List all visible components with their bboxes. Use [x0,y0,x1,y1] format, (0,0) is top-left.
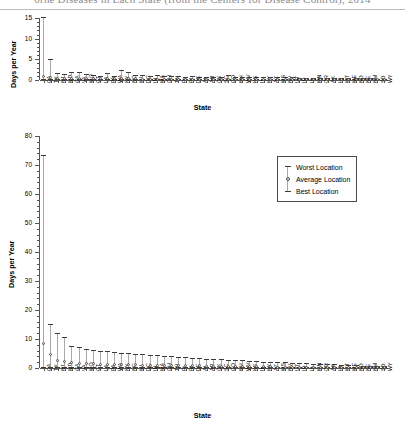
error-bar-item[interactable] [225,136,232,368]
error-bar-item[interactable] [47,18,54,80]
error-bar-item[interactable] [367,136,374,368]
x-tick [235,369,236,371]
error-bar-item[interactable] [239,136,246,368]
error-bar-item[interactable] [317,18,324,80]
error-bar-item[interactable] [76,136,83,368]
error-bar-item[interactable] [161,18,168,80]
error-bar-item[interactable] [260,18,267,80]
error-bar-item[interactable] [40,136,47,368]
error-bar-item[interactable] [218,136,225,368]
range-stem [64,338,65,368]
error-bar-item[interactable] [189,136,196,368]
error-bar-item[interactable] [40,18,47,80]
error-bar-item[interactable] [196,18,203,80]
error-bar-item[interactable] [125,18,132,80]
error-bar-item[interactable] [381,18,388,80]
average-location-marker [42,75,45,78]
error-bar-item[interactable] [189,18,196,80]
error-bar-item[interactable] [111,136,118,368]
x-tick [178,81,179,83]
error-bar-item[interactable] [232,136,239,368]
error-bar-item[interactable] [381,136,388,368]
error-bar-item[interactable] [147,136,154,368]
error-bar-item[interactable] [68,18,75,80]
error-bar-item[interactable] [104,18,111,80]
error-bar-item[interactable] [175,18,182,80]
error-bar-item[interactable] [210,136,217,368]
error-bar-item[interactable] [147,18,154,80]
error-bar-item[interactable] [154,18,161,80]
error-bar-item[interactable] [310,18,317,80]
error-bar-item[interactable] [118,136,125,368]
error-bar-item[interactable] [132,18,139,80]
error-bar-item[interactable] [83,18,90,80]
error-bar-item[interactable] [360,136,367,368]
average-location-marker [42,342,45,345]
error-bar-item[interactable] [324,18,331,80]
error-bar-item[interactable] [97,136,104,368]
error-bar-item[interactable] [352,18,359,80]
worst-location-cap [211,359,216,360]
x-tick [143,369,144,371]
x-tick [207,81,208,83]
error-bar-item[interactable] [168,18,175,80]
error-bar-item[interactable] [139,136,146,368]
error-bar-item[interactable] [374,18,381,80]
error-bar-item[interactable] [154,136,161,368]
error-bar-item[interactable] [203,18,210,80]
error-bar-item[interactable] [61,136,68,368]
error-bar-item[interactable] [54,18,61,80]
error-bar-item[interactable] [253,136,260,368]
error-bar-item[interactable] [83,136,90,368]
error-bar-item[interactable] [367,18,374,80]
error-bar-item[interactable] [374,136,381,368]
error-bar-item[interactable] [125,136,132,368]
error-bar-item[interactable] [232,18,239,80]
error-bar-item[interactable] [239,18,246,80]
error-bar-item[interactable] [90,136,97,368]
error-bar-item[interactable] [104,136,111,368]
error-bar-item[interactable] [196,136,203,368]
worst-location-icon [282,161,293,173]
y-tick-label: 20 [10,306,32,313]
error-bar-item[interactable] [210,18,217,80]
error-bar-item[interactable] [360,18,367,80]
average-location-marker [234,365,237,368]
error-bar-item[interactable] [246,136,253,368]
error-bar-item[interactable] [182,18,189,80]
error-bar-item[interactable] [203,136,210,368]
error-bar-item[interactable] [118,18,125,80]
error-bar-item[interactable] [61,18,68,80]
error-bar-item[interactable] [168,136,175,368]
error-bar-item[interactable] [253,18,260,80]
error-bar-item[interactable] [260,136,267,368]
worst-location-cap [148,355,153,356]
error-bar-item[interactable] [296,18,303,80]
error-bar-item[interactable] [289,18,296,80]
error-bar-item[interactable] [47,136,54,368]
error-bar-item[interactable] [182,136,189,368]
error-bar-item[interactable] [218,18,225,80]
error-bar-item[interactable] [267,18,274,80]
x-tick [257,81,258,83]
error-bar-item[interactable] [132,136,139,368]
error-bar-item[interactable] [97,18,104,80]
error-bar-item[interactable] [111,18,118,80]
error-bar-item[interactable] [225,18,232,80]
error-bar-item[interactable] [139,18,146,80]
error-bar-item[interactable] [281,18,288,80]
error-bar-item[interactable] [68,136,75,368]
error-bar-item[interactable] [274,18,281,80]
error-bar-item[interactable] [175,136,182,368]
error-bar-item[interactable] [345,18,352,80]
error-bar-item[interactable] [338,18,345,80]
error-bar-item[interactable] [246,18,253,80]
error-bar-item[interactable] [76,18,83,80]
error-bar-item[interactable] [161,136,168,368]
error-bar-item[interactable] [267,136,274,368]
error-bar-item[interactable] [303,18,310,80]
error-bar-item[interactable] [54,136,61,368]
legend: Worst Location Average Location Best Loc… [277,156,357,202]
error-bar-item[interactable] [90,18,97,80]
error-bar-item[interactable] [331,18,338,80]
